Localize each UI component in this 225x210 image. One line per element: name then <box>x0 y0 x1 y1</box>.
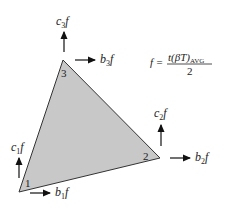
equation: f = t(βT)AVG 2 <box>150 51 212 77</box>
diagram-canvas: 3 2 1 c3f b3f c2f b2f c1f b1f f = t(βT)A… <box>0 0 225 210</box>
equation-numerator: t(βT)AVG <box>168 51 204 65</box>
node-label-1: 1 <box>25 177 31 189</box>
force-c2-label: c2f <box>154 106 168 122</box>
triangle-element <box>19 60 160 192</box>
node-label-3: 3 <box>61 67 67 79</box>
node-label-2: 2 <box>143 150 149 162</box>
force-b2-label: b2f <box>195 150 210 166</box>
equation-lhs: f = <box>150 56 163 68</box>
force-c1-label: c1f <box>11 140 25 156</box>
force-c3-label: c3f <box>56 14 70 30</box>
triangle-diagram: 3 2 1 c3f b3f c2f b2f c1f b1f f = t(βT)A… <box>0 0 225 210</box>
equation-denominator: 2 <box>187 65 193 77</box>
force-b3-label: b3f <box>100 52 115 68</box>
force-b1-label: b1f <box>55 185 70 201</box>
